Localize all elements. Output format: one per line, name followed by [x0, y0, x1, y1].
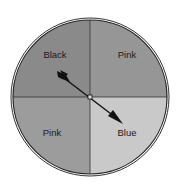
section-label-bottom-right: Blue	[117, 127, 136, 138]
spinner-diagram: Black Pink Pink Blue	[0, 0, 178, 192]
section-label-top-left: Black	[43, 49, 66, 60]
section-label-top-right: Pink	[118, 49, 137, 60]
pivot-icon	[88, 95, 92, 99]
section-label-bottom-left: Pink	[43, 127, 62, 138]
